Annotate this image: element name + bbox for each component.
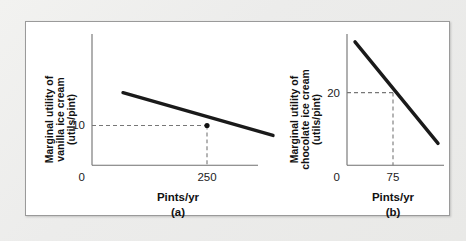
- panel-b-ylabel-line1: Marginal utility of: [289, 75, 300, 163]
- chart-panel-b: Marginal utility of chocolate ice cream …: [281, 22, 451, 215]
- panel-b-xlabel: Pints/yr: [372, 191, 415, 203]
- panel-a-xlabel: Pints/yr: [157, 191, 200, 203]
- panel-a-ylabel-line2: vanilla ice cream: [55, 77, 66, 161]
- panel-b-plot: Marginal utility of chocolate ice cream …: [281, 22, 451, 215]
- panel-a-curve: [123, 93, 273, 136]
- panel-a-origin-label: 0: [79, 171, 85, 183]
- panel-a-plot: Marginal utility of vanilla ice cream (u…: [26, 22, 281, 215]
- panel-b-caption: (b): [386, 206, 401, 218]
- panel-b-ytick-20: 20: [327, 87, 340, 99]
- panel-b-ylabel-line2: chocolate ice cream: [300, 69, 311, 170]
- chart-panel-a: Marginal utility of vanilla ice cream (u…: [26, 22, 281, 215]
- panel-a-ytick-10: 10: [72, 119, 85, 131]
- figure-frame: Marginal utility of vanilla ice cream (u…: [25, 21, 450, 216]
- panel-b-curve: [355, 42, 438, 143]
- figure-root: Marginal utility of vanilla ice cream (u…: [0, 0, 466, 241]
- panel-a-ylabel-line1: Marginal utility of: [44, 75, 55, 163]
- panel-b-ylabel-line3: (utils/pint): [311, 94, 322, 145]
- panel-a-caption: (a): [171, 206, 185, 218]
- panel-a-xtick-250: 250: [197, 171, 216, 183]
- panel-a-point-marker: [204, 123, 209, 128]
- panel-b-origin-label: 0: [334, 171, 340, 183]
- panel-b-ylabel: Marginal utility of chocolate ice cream …: [289, 69, 322, 170]
- panel-b-xtick-75: 75: [387, 171, 400, 183]
